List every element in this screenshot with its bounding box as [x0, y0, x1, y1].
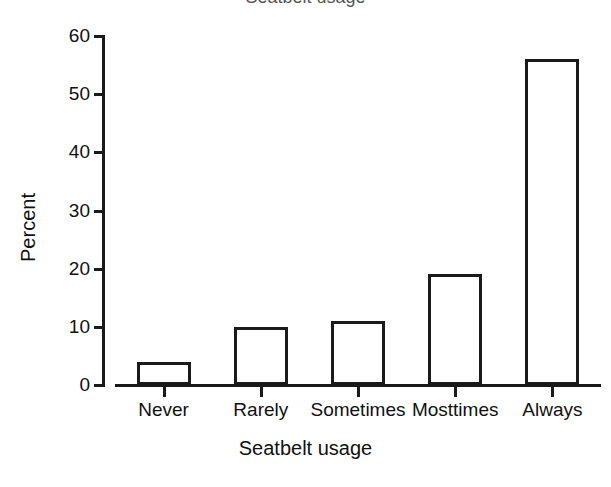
y-tick-label-wrap: 50: [30, 84, 90, 103]
y-tick-mark: [94, 326, 105, 329]
y-tick-mark: [94, 151, 105, 154]
x-tick-mark: [454, 386, 457, 397]
y-tick-label: 20: [44, 259, 90, 278]
bar-chart: Seatbelt usage 0102030405060 NeverRarely…: [0, 0, 611, 487]
x-axis-title: Seatbelt usage: [0, 437, 611, 460]
y-tick-mark: [94, 384, 105, 387]
y-tick-mark: [94, 210, 105, 213]
y-tick-mark: [94, 93, 105, 96]
x-tick-label-rarely: Rarely: [233, 399, 288, 421]
y-tick-label-wrap: 40: [30, 142, 90, 161]
cropped-title-text: Seatbelt usage: [0, 0, 611, 8]
bar-sometimes: [331, 321, 385, 385]
y-axis-title: Percent: [17, 168, 40, 288]
y-tick-label: 30: [44, 201, 90, 220]
x-tick-label-mosttimes: Mosttimes: [412, 399, 499, 421]
x-tick-mark: [357, 386, 360, 397]
x-tick-mark: [163, 386, 166, 397]
x-tick-label-always: Always: [522, 399, 582, 421]
x-tick-label-never: Never: [138, 399, 189, 421]
y-tick-mark: [94, 35, 105, 38]
y-tick-label-wrap: 60: [30, 26, 90, 45]
x-tick-mark: [260, 386, 263, 397]
y-tick-label: 10: [44, 317, 90, 336]
bar-never: [137, 362, 191, 385]
cropped-title-sliver: Seatbelt usage: [0, 0, 611, 9]
y-tick-label-wrap: 0: [30, 375, 90, 394]
y-tick-label: 40: [44, 142, 90, 161]
y-tick-label: 50: [44, 84, 90, 103]
y-tick-label: 0: [44, 375, 90, 394]
bar-always: [525, 59, 579, 385]
x-tick-label-sometimes: Sometimes: [310, 399, 405, 421]
y-tick-label-wrap: 10: [30, 317, 90, 336]
y-tick-label: 60: [44, 26, 90, 45]
y-tick-mark: [94, 268, 105, 271]
bar-mosttimes: [428, 274, 482, 385]
x-tick-mark: [551, 386, 554, 397]
bar-rarely: [234, 327, 288, 385]
